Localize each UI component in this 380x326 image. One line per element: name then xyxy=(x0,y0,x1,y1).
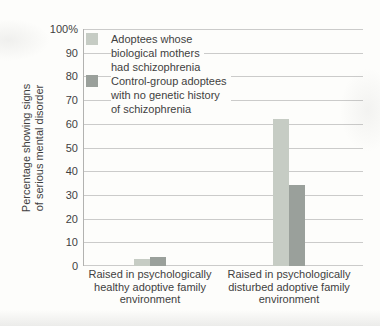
gridline-40 xyxy=(84,171,363,172)
y-tick-label-30: 30 xyxy=(0,188,78,202)
x-category-label-2: Raised in psychologicallydisturbed adopt… xyxy=(204,268,374,306)
y-tick-label-70: 70 xyxy=(0,93,78,107)
x-category-label-line: disturbed adoptive family xyxy=(204,281,374,294)
bar-group-1 xyxy=(134,29,166,266)
legend-label-line: of schizophrenia xyxy=(111,102,227,116)
gridline-30 xyxy=(84,195,363,196)
gridline-60 xyxy=(84,124,363,125)
legend-label-line: Control-group adoptees xyxy=(111,74,227,88)
y-tick-label-100: 100% xyxy=(0,22,78,36)
legend-label-2: Control-group adopteeswith no genetic hi… xyxy=(111,74,231,116)
y-tick-label-80: 80 xyxy=(0,69,78,83)
gridline-20 xyxy=(84,219,363,220)
y-tick-label-40: 40 xyxy=(0,164,78,178)
plot-area: Adoptees whosebiological mothershad schi… xyxy=(84,29,363,266)
legend-label-line: with no genetic history xyxy=(111,88,227,102)
gridline-0 xyxy=(84,265,363,266)
y-tick-label-10: 10 xyxy=(0,235,78,249)
bar-series-1-group-1 xyxy=(134,259,150,266)
gridline-50 xyxy=(84,148,363,149)
gridline-100 xyxy=(84,29,363,30)
bar-group-2 xyxy=(273,29,305,266)
legend-swatch-2 xyxy=(86,75,98,87)
bar-series-2-group-2 xyxy=(289,185,305,266)
y-tick-label-20: 20 xyxy=(0,212,78,226)
y-tick-label-60: 60 xyxy=(0,117,78,131)
y-tick-label-90: 90 xyxy=(0,46,78,60)
figure-container: Percentage showing signs of serious ment… xyxy=(0,0,380,326)
gridline-10 xyxy=(84,242,363,243)
x-category-label-line: environment xyxy=(204,293,374,306)
legend-swatch-1 xyxy=(86,33,98,45)
bar-series-2-group-1 xyxy=(150,257,166,266)
y-tick-label-50: 50 xyxy=(0,141,78,155)
bar-series-1-group-2 xyxy=(273,119,289,266)
x-category-label-line: Raised in psychologically xyxy=(204,268,374,281)
y-axis-line xyxy=(83,29,84,266)
